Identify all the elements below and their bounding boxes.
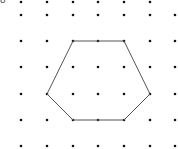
grid-dot [123,66,126,69]
grid-dot [149,40,152,43]
grid-dot [20,119,23,122]
grid-dot [97,1,100,4]
grid-dot [123,145,126,148]
grid-dot [72,66,75,69]
grid-dot [20,93,23,96]
grid-dot [149,66,152,69]
grid-dot [149,1,152,4]
grid-dot [72,1,75,4]
grid-dot [174,119,177,122]
grid-dot [20,40,23,43]
grid-dot [20,145,23,148]
grid-dot [97,14,100,17]
grid-dot [72,93,75,96]
grid-dot [174,40,177,43]
grid-dot [97,66,100,69]
grid-dot [174,145,177,148]
grid-dot [174,66,177,69]
hexagon-shape [47,41,150,120]
grid-dot [123,93,126,96]
grid-dot [46,1,49,4]
grid-dot [46,14,49,17]
grid-dot [149,119,152,122]
grid-dot [123,1,126,4]
grid-dot [20,14,23,17]
diagram-canvas [0,0,178,149]
grid-dot [123,14,126,17]
grid-dot [20,1,23,4]
grid-dot [174,93,177,96]
grid-dot [149,145,152,148]
grid-dot [149,14,152,17]
grid-dot [46,145,49,148]
grid-dot [46,66,49,69]
grid-dot [174,14,177,17]
grid-dot [97,145,100,148]
grid-dot [46,40,49,43]
grid-dot [97,93,100,96]
grid-dot [72,145,75,148]
grid-dots [20,1,177,148]
dot-grid-diagram: 8 [0,0,178,149]
grid-dot [72,14,75,17]
grid-dot [20,66,23,69]
grid-dot [46,119,49,122]
cropped-label: 8 [0,0,6,5]
